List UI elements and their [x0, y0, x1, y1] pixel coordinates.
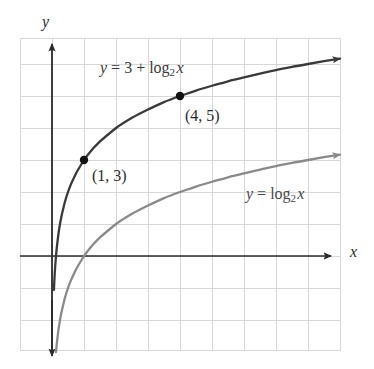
- data-point-marker: [80, 156, 88, 164]
- label-lower-curve-equation: y = log2 x: [246, 186, 304, 204]
- y-axis-label: y: [42, 14, 49, 30]
- plot-canvas: [0, 0, 374, 369]
- label-upper-curve-equation: y = 3 + log2 x: [100, 60, 184, 78]
- logarithmic-function-graph: y = 3 + log2 x y = log2 x (1, 3) (4, 5) …: [0, 0, 374, 369]
- data-point-marker: [176, 92, 184, 100]
- x-axis-label: x: [350, 244, 357, 260]
- label-lower-arg: x: [297, 185, 304, 202]
- label-upper-arg: x: [176, 59, 183, 76]
- label-upper-eq: = 3 + log: [107, 59, 170, 76]
- label-point-4-5: (4, 5): [185, 108, 220, 124]
- label-lower-eq: = log: [253, 185, 290, 202]
- label-point-1-3: (1, 3): [92, 168, 127, 184]
